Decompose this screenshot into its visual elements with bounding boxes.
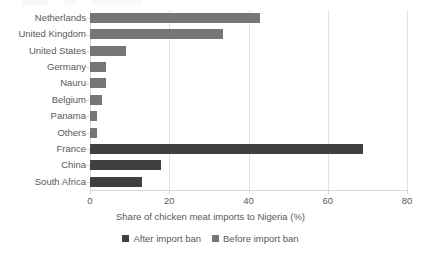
bar-nauru[interactable] <box>90 78 106 88</box>
bar-germany[interactable] <box>90 62 106 72</box>
legend-label: Before import ban <box>223 233 299 244</box>
x-axis-tick-80 <box>407 190 408 194</box>
bar-row <box>90 10 407 26</box>
bar-united-states[interactable] <box>90 46 126 56</box>
y-axis-label-china: China <box>0 157 86 173</box>
y-axis-category-labels: NetherlandsUnited KingdomUnited StatesGe… <box>0 10 86 190</box>
bar-chart: NetherlandsUnited KingdomUnited StatesGe… <box>0 0 421 262</box>
bar-united-kingdom[interactable] <box>90 29 223 39</box>
y-axis-label-nauru: Nauru <box>0 75 86 91</box>
bar-row <box>90 141 407 157</box>
y-axis-label-france: France <box>0 141 86 157</box>
bar-south-africa[interactable] <box>90 177 142 187</box>
gridline-80 <box>407 10 408 190</box>
y-axis-label-others: Others <box>0 125 86 141</box>
x-axis-tick-label-20: 20 <box>149 195 189 206</box>
y-axis-label-belgium: Belgium <box>0 92 86 108</box>
y-axis-label-south-africa: South Africa <box>0 174 86 190</box>
legend-item-after-import-ban[interactable]: After import ban <box>122 233 201 244</box>
bar-others[interactable] <box>90 128 97 138</box>
y-axis-label-panama: Panama <box>0 108 86 124</box>
bar-row <box>90 26 407 42</box>
bar-row <box>90 125 407 141</box>
y-axis-label-netherlands: Netherlands <box>0 10 86 26</box>
legend-swatch-icon <box>212 235 219 242</box>
bar-netherlands[interactable] <box>90 13 260 23</box>
x-axis-tick-20 <box>169 190 170 194</box>
x-axis-tick-60 <box>328 190 329 194</box>
bar-row <box>90 75 407 91</box>
bar-row <box>90 174 407 190</box>
bar-row <box>90 43 407 59</box>
x-axis-title: Share of chicken meat imports to Nigeria… <box>0 211 421 222</box>
bar-row <box>90 157 407 173</box>
bar-china[interactable] <box>90 160 161 170</box>
legend-swatch-icon <box>122 235 129 242</box>
legend-label: After import ban <box>133 233 201 244</box>
cropped-title-artifact <box>22 0 142 5</box>
x-axis-tick-label-80: 80 <box>387 195 421 206</box>
x-axis-tick-label-40: 40 <box>229 195 269 206</box>
y-axis-label-germany: Germany <box>0 59 86 75</box>
bar-row <box>90 108 407 124</box>
x-axis-tick-label-60: 60 <box>308 195 348 206</box>
x-axis-tick-label-0: 0 <box>70 195 110 206</box>
x-axis-tick-40 <box>249 190 250 194</box>
y-axis-label-united-states: United States <box>0 43 86 59</box>
bar-belgium[interactable] <box>90 95 102 105</box>
y-axis-label-united-kingdom: United Kingdom <box>0 26 86 42</box>
bar-row <box>90 59 407 75</box>
bar-france[interactable] <box>90 144 363 154</box>
bars-container <box>90 10 407 190</box>
chart-legend: After import banBefore import ban <box>0 233 421 244</box>
x-axis-tick-0 <box>90 190 91 194</box>
bar-row <box>90 92 407 108</box>
legend-item-before-import-ban[interactable]: Before import ban <box>212 233 299 244</box>
bar-panama[interactable] <box>90 111 97 121</box>
